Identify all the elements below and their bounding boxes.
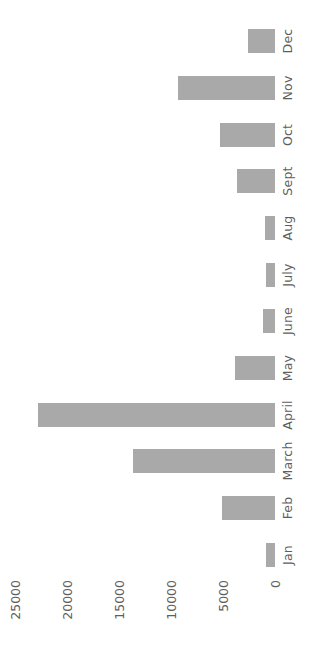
bar[interactable] [237,169,275,193]
category-tick-label: April [280,400,295,430]
bar-row: March [0,438,333,485]
bar-row: Oct [0,111,333,158]
bar-row: Aug [0,205,333,252]
bar[interactable] [220,123,275,147]
category-tick-label: May [280,355,295,381]
value-tick-label: 0 [268,580,283,588]
bar[interactable] [222,496,275,520]
bar[interactable] [235,356,275,380]
bar-row: Jan [0,531,333,578]
value-axis: 0500010000150002000025000 [0,578,333,659]
category-tick-label: Dec [280,29,295,54]
bar[interactable] [178,76,275,100]
bar[interactable] [266,263,275,287]
bar-row: Nov [0,65,333,112]
bar-row: July [0,251,333,298]
bar-row: April [0,391,333,438]
value-tick-label: 25000 [8,580,23,620]
bar-row: Dec [0,18,333,65]
category-tick-label: March [280,442,295,481]
bar[interactable] [263,309,275,333]
bar-row: June [0,298,333,345]
plot-area: JanFebMarchAprilMayJuneJulyAugSeptOctNov… [0,18,333,578]
category-tick-label: Jan [280,545,295,565]
bar-row: May [0,345,333,392]
bar[interactable] [265,216,275,240]
value-tick-label: 20000 [60,580,75,620]
bar[interactable] [248,29,275,53]
category-tick-label: July [280,263,295,286]
category-tick-label: Feb [280,497,295,520]
bar-chart: JanFebMarchAprilMayJuneJulyAugSeptOctNov… [0,0,333,659]
category-tick-label: June [280,307,295,335]
category-tick-label: Nov [280,75,295,100]
value-tick-label: 5000 [216,580,231,612]
category-tick-label: Sept [280,167,295,196]
value-tick-label: 15000 [112,580,127,620]
bar[interactable] [133,449,275,473]
bar-row: Feb [0,485,333,532]
bar[interactable] [266,543,275,567]
value-tick-label: 10000 [164,580,179,620]
bar-row: Sept [0,158,333,205]
category-tick-label: Oct [280,124,295,146]
category-tick-label: Aug [280,215,295,240]
bar[interactable] [38,403,275,427]
